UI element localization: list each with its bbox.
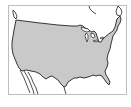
map-container [0,0,131,107]
us-map [0,0,131,107]
